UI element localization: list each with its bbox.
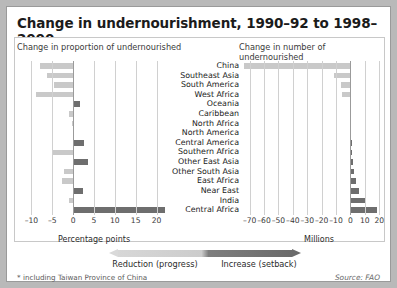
category-label: East Africa (167, 176, 239, 186)
left-chart-header: Change in proportion of undernourished (17, 42, 181, 52)
right-chart-bar (244, 63, 351, 69)
left-chart-gridline (31, 61, 32, 215)
right-chart-gridline (264, 61, 265, 215)
category-label: West Africa (167, 90, 239, 100)
right-chart-tick-label: –50 (272, 216, 285, 225)
left-chart-gridline (115, 61, 116, 215)
left-chart-bar (73, 101, 80, 107)
legend-label-increase: Increase (setback) (221, 259, 297, 269)
left-chart-bar (73, 188, 83, 194)
arrow-left-head-icon (109, 249, 118, 257)
left-chart-tick-label: –10 (25, 216, 38, 225)
category-label: North Africa (167, 119, 239, 129)
right-chart-gridline (293, 61, 294, 215)
right-chart-gridline (336, 61, 337, 215)
right-chart-tick-label: –40 (286, 216, 299, 225)
right-chart-gridline (365, 61, 366, 215)
category-labels: ChinaSoutheast AsiaSouth AmericaWest Afr… (167, 61, 239, 215)
right-chart-plot: –70–60–50–40–30–20–1001020 (241, 61, 385, 215)
left-chart-gridline (157, 61, 158, 215)
left-chart-bar (36, 92, 74, 98)
left-chart-bar (40, 63, 73, 69)
left-chart-tick-label: 10 (110, 216, 120, 225)
category-label: Central Africa (167, 205, 239, 215)
left-chart-gridline (52, 61, 53, 215)
right-chart-gridline (350, 61, 351, 215)
left-chart-tick-label: 15 (131, 216, 141, 225)
left-chart-plot: –10–505101520 (21, 61, 167, 215)
left-chart-gridline (94, 61, 95, 215)
category-label: South America (167, 80, 239, 90)
category-label: Oceania (167, 99, 239, 109)
right-chart-tick-label: –30 (301, 216, 314, 225)
left-chart-bar (73, 207, 165, 213)
left-chart-tick-label: –5 (48, 216, 57, 225)
left-chart-gridline (73, 61, 74, 215)
category-label: Caribbean (167, 109, 239, 119)
left-chart-gridline (136, 61, 137, 215)
category-label: Other South Asia (167, 167, 239, 177)
legend-label-reduction: Reduction (progress) (112, 259, 197, 269)
category-label: Southern Africa (167, 147, 239, 157)
right-chart-bar (350, 207, 377, 213)
left-chart-tick-label: 0 (71, 216, 76, 225)
arrow-right-head-icon (292, 249, 301, 257)
left-chart-bar (73, 140, 83, 146)
right-chart-bar (350, 188, 359, 194)
footnote: * including Taiwan Province of China (17, 273, 147, 282)
right-chart-gridline (250, 61, 251, 215)
source-label: Source: FAO (335, 273, 380, 282)
right-chart-gridline (322, 61, 323, 215)
left-chart-bar (47, 73, 73, 79)
right-chart-gridline (379, 61, 380, 215)
right-chart-tick-label: 10 (360, 216, 370, 225)
right-axis-title: Millions (304, 235, 334, 244)
right-chart-tick-label: 0 (348, 216, 353, 225)
category-label: Other East Asia (167, 157, 239, 167)
left-chart-bar (73, 159, 88, 165)
category-label: Southeast Asia (167, 71, 239, 81)
right-chart-gridline (278, 61, 279, 215)
right-chart-tick-label: –20 (315, 216, 328, 225)
right-chart-tick-label: –60 (257, 216, 270, 225)
right-chart-tick-label: –70 (243, 216, 256, 225)
right-chart-gridline (307, 61, 308, 215)
left-chart-bar (62, 178, 73, 184)
category-label: North America (167, 128, 239, 138)
category-label: Central America (167, 138, 239, 148)
left-chart-tick-label: 20 (152, 216, 162, 225)
right-bars (241, 61, 385, 215)
right-chart-tick-label: –10 (329, 216, 342, 225)
right-chart-bar (342, 92, 351, 98)
left-chart-bar (64, 169, 73, 175)
right-chart-header: Change in number of undernourished (239, 42, 390, 62)
right-chart-bar (350, 198, 365, 204)
left-chart-bar (54, 82, 73, 88)
right-chart-bar (341, 82, 350, 88)
left-chart-bar (53, 150, 73, 156)
chart-card: Change in undernourishment, 1990–92 to 1… (6, 6, 391, 282)
category-label: China (167, 61, 239, 71)
category-label: Near East (167, 186, 239, 196)
category-label: India (167, 196, 239, 206)
left-chart-tick-label: 5 (92, 216, 97, 225)
right-chart-tick-label: 20 (374, 216, 384, 225)
legend-arrow (109, 249, 301, 258)
left-axis-title: Percentage points (58, 235, 130, 244)
legend-gradient-bar (118, 250, 292, 257)
